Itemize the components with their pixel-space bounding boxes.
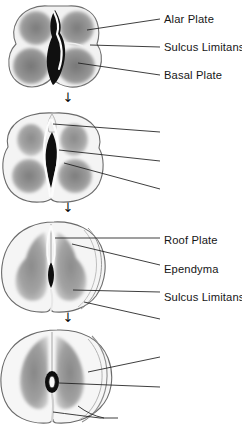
stage-3-cross-section-illustration <box>0 218 242 322</box>
leader-line-sulcus-limitans <box>90 45 160 47</box>
stage-2-ventral-gray-right <box>58 159 92 193</box>
stage-2-dorsal-gray-left <box>17 124 45 156</box>
stage-1-alar-plate-left <box>19 11 53 45</box>
stage-2-dorsal-gray-right <box>60 124 88 156</box>
stage-4-anterior-fissure <box>52 394 53 421</box>
stage-2-cross-section-illustration <box>0 108 242 210</box>
stage-1-basal-plate-left <box>13 48 49 84</box>
stage-3-spinal-cord-late-fetal: Dorsal Column Posterior Horn Anterior Ho… <box>0 218 242 322</box>
stage-2-ventral-gray-left <box>12 159 46 193</box>
stage-1-alar-plate-right <box>60 11 94 45</box>
label-sulcus-limitans-stage1: Sulcus Limitans <box>164 41 242 53</box>
spinal-cord-development-figure: Alar Plate Sulcus Limitans Basal Plate ↓ <box>0 0 242 438</box>
stage-4-spinal-cord-mature: Lateral Column Ependyma Anterior Fissure <box>0 328 242 438</box>
arrow-stage1-to-stage2: ↓ <box>62 91 74 104</box>
arrow-stage2-to-stage3: ↓ <box>62 201 74 214</box>
stage-2-neural-tube-intermediate: Roof Plate Ependyma Sulcus Limitans <box>0 108 242 210</box>
stage-4-central-canal-lumen <box>49 376 55 388</box>
leader-line-ventral-column <box>84 302 160 319</box>
label-basal-plate: Basal Plate <box>164 69 222 81</box>
arrow-stage3-to-stage4: ↓ <box>62 311 74 324</box>
stage-4-cross-section-illustration <box>0 328 242 438</box>
stage-1-neural-tube-early: Alar Plate Sulcus Limitans Basal Plate <box>0 0 242 100</box>
label-alar-plate: Alar Plate <box>164 13 214 25</box>
